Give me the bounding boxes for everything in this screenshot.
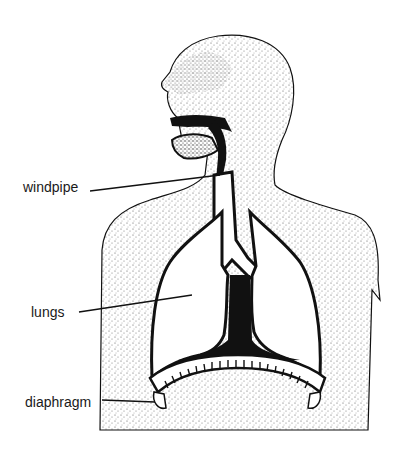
label-windpipe: windpipe	[23, 180, 78, 194]
label-diaphragm: diaphragm	[25, 395, 91, 409]
label-lungs: lungs	[31, 305, 64, 319]
respiratory-diagram	[0, 0, 407, 461]
body-outline	[100, 35, 380, 430]
mouth-tongue	[172, 134, 218, 158]
